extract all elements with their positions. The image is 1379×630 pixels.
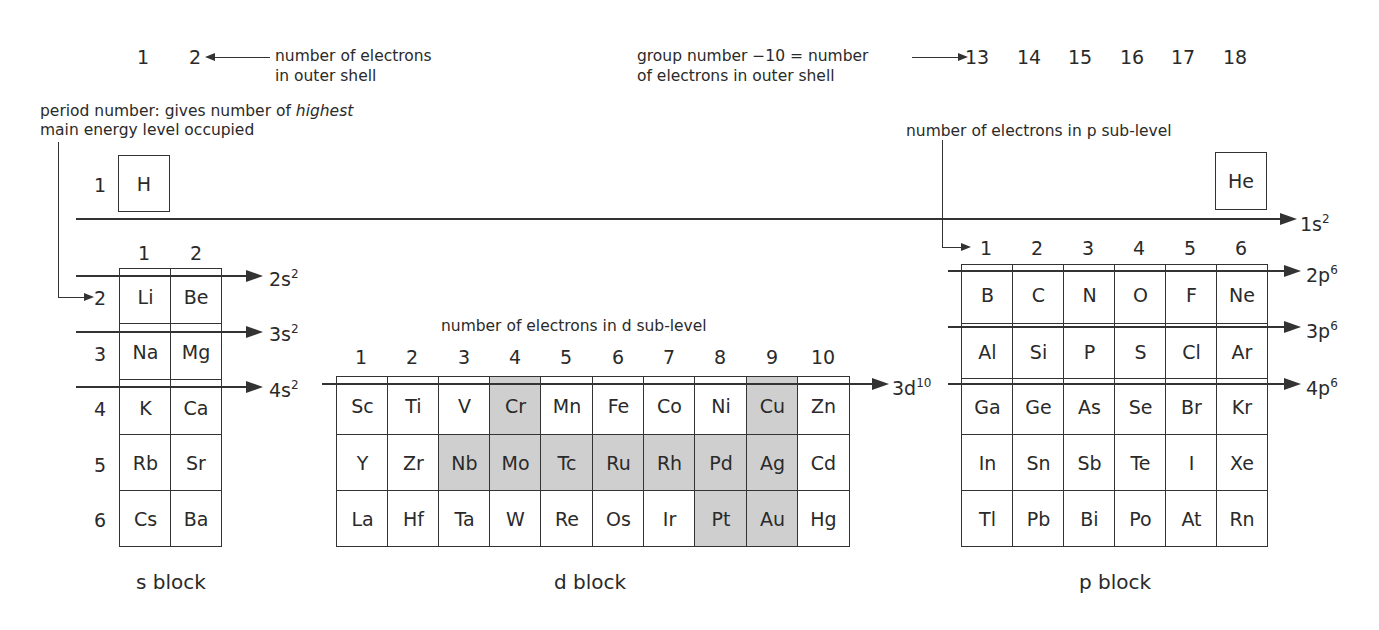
element-cell-Hg[interactable]: Hg (797, 490, 850, 547)
element-cell-P[interactable]: P (1063, 323, 1116, 380)
element-cell-Pb[interactable]: Pb (1012, 490, 1065, 547)
element-cell-I[interactable]: I (1165, 434, 1218, 492)
element-cell-Fe[interactable]: Fe (592, 376, 645, 436)
element-cell-Ru[interactable]: Ru (592, 434, 645, 492)
element-cell-Te[interactable]: Te (1114, 434, 1167, 492)
element-cell-Cd[interactable]: Cd (797, 434, 850, 492)
element-cell-Cr[interactable]: Cr (489, 376, 542, 436)
element-cell-W[interactable]: W (489, 490, 542, 547)
element-cell-Sb[interactable]: Sb (1063, 434, 1116, 492)
element-cell-C[interactable]: C (1012, 264, 1065, 325)
element-cell-Bi[interactable]: Bi (1063, 490, 1116, 547)
group-16-label: 16 (1112, 46, 1152, 68)
group-18-label: 18 (1215, 46, 1255, 68)
element-cell-Y[interactable]: Y (336, 434, 389, 492)
element-cell-Cl[interactable]: Cl (1165, 323, 1218, 380)
element-cell-Tc[interactable]: Tc (540, 434, 594, 492)
p-col-4-label: 4 (1119, 237, 1159, 259)
group-17-label: 17 (1163, 46, 1203, 68)
sublevel-1s-arrow-line (76, 218, 1288, 220)
element-cell-Ba[interactable]: Ba (170, 490, 222, 547)
element-cell-Pd[interactable]: Pd (694, 434, 748, 492)
d-col-8-label: 8 (700, 346, 740, 368)
element-cell-Ni[interactable]: Ni (694, 376, 748, 436)
p-col-1-label: 1 (966, 237, 1006, 259)
sublevel-3s-label: 3s2 (269, 318, 299, 345)
element-cell-Sr[interactable]: Sr (170, 434, 222, 492)
element-cell-Cu[interactable]: Cu (746, 376, 799, 436)
element-cell-Ta[interactable]: Ta (438, 490, 491, 547)
element-cell-S[interactable]: S (1114, 323, 1167, 380)
element-cell-B[interactable]: B (961, 264, 1014, 325)
group-15-label: 15 (1060, 46, 1100, 68)
arrow-right-icon (1284, 265, 1301, 277)
element-cell-O[interactable]: O (1114, 264, 1167, 325)
arrow-right-icon (246, 326, 263, 338)
element-cell-Mn[interactable]: Mn (540, 376, 594, 436)
element-cell-Ti[interactable]: Ti (387, 376, 440, 436)
element-cell-Ge[interactable]: Ge (1012, 378, 1065, 436)
element-cell-Rh[interactable]: Rh (643, 434, 696, 492)
element-cell-Rn[interactable]: Rn (1216, 490, 1268, 547)
arrow-right-icon (246, 270, 263, 282)
element-cell-Au[interactable]: Au (746, 490, 799, 547)
element-cell-Mo[interactable]: Mo (489, 434, 542, 492)
sublevel-4s-arrow-line (76, 386, 252, 388)
arrow-left-icon (205, 53, 215, 61)
element-cell-Kr[interactable]: Kr (1216, 378, 1268, 436)
sublevel-2s-arrow-line (76, 275, 252, 277)
period-pointer-horizontal (58, 297, 86, 298)
element-cell-Ir[interactable]: Ir (643, 490, 696, 547)
element-cell-In[interactable]: In (961, 434, 1014, 492)
arrow-right-icon (872, 378, 889, 390)
element-cell-Sn[interactable]: Sn (1012, 434, 1065, 492)
element-cell-Al[interactable]: Al (961, 323, 1014, 380)
element-cell-As[interactable]: As (1063, 378, 1116, 436)
element-cell-Sc[interactable]: Sc (336, 376, 389, 436)
element-cell-Rb[interactable]: Rb (119, 434, 172, 492)
element-cell-La[interactable]: La (336, 490, 389, 547)
d-block-label: d block (510, 570, 670, 594)
outer-shell-label-line2: in outer shell (275, 66, 376, 86)
d-col-3-label: 3 (444, 346, 484, 368)
element-cell-Cs[interactable]: Cs (119, 490, 172, 547)
element-cell-H[interactable]: H (118, 155, 170, 212)
d-col-7-label: 7 (649, 346, 689, 368)
element-cell-F[interactable]: F (1165, 264, 1218, 325)
element-cell-He[interactable]: He (1215, 152, 1267, 210)
sublevel-3d-arrow-line (322, 383, 878, 385)
element-cell-N[interactable]: N (1063, 264, 1116, 325)
element-cell-At[interactable]: At (1165, 490, 1218, 547)
element-cell-Si[interactable]: Si (1012, 323, 1065, 380)
sublevel-1s-label: 1s2 (1300, 208, 1330, 235)
element-cell-Xe[interactable]: Xe (1216, 434, 1268, 492)
period-1-label: 1 (86, 174, 106, 196)
element-cell-Ag[interactable]: Ag (746, 434, 799, 492)
element-cell-Tl[interactable]: Tl (961, 490, 1014, 547)
element-cell-V[interactable]: V (438, 376, 491, 436)
element-cell-Se[interactable]: Se (1114, 378, 1167, 436)
p-col-2-label: 2 (1017, 237, 1057, 259)
arrow-right-icon (1284, 378, 1301, 390)
d-col-2-label: 2 (392, 346, 432, 368)
element-cell-Zr[interactable]: Zr (387, 434, 440, 492)
element-cell-Ar[interactable]: Ar (1216, 323, 1268, 380)
period-label-line2: main energy level occupied (40, 120, 254, 140)
element-cell-Ne[interactable]: Ne (1216, 264, 1268, 325)
element-cell-Po[interactable]: Po (1114, 490, 1167, 547)
sublevel-3s-arrow-line (76, 331, 252, 333)
element-cell-Br[interactable]: Br (1165, 378, 1218, 436)
d-col-6-label: 6 (598, 346, 638, 368)
element-cell-Nb[interactable]: Nb (438, 434, 491, 492)
group-rule-line2: of electrons in outer shell (637, 66, 835, 86)
element-cell-Ga[interactable]: Ga (961, 378, 1014, 436)
element-cell-Re[interactable]: Re (540, 490, 594, 547)
s-col-2-label: 2 (176, 242, 216, 264)
element-cell-Zn[interactable]: Zn (797, 376, 850, 436)
element-cell-Pt[interactable]: Pt (694, 490, 748, 547)
element-cell-Co[interactable]: Co (643, 376, 696, 436)
outer-shell-arrow-line (210, 57, 270, 58)
d-col-5-label: 5 (546, 346, 586, 368)
element-cell-Hf[interactable]: Hf (387, 490, 440, 547)
element-cell-Os[interactable]: Os (592, 490, 645, 547)
